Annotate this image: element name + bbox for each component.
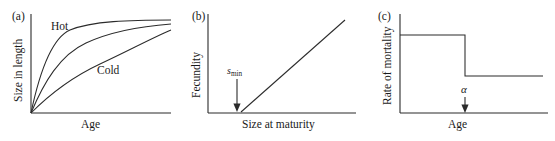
three-panel-life-history-figure: (a) Size in length Age Hot Cold (b) Fecu…	[0, 0, 555, 141]
panel-b-x-axis-label: Size at maturity	[242, 119, 315, 131]
panel-b-label: (b)	[192, 11, 205, 23]
panel-c-mortality-plot: (c) Rate of mortality Age α	[370, 0, 555, 141]
panel-c-alpha-marker-label: α	[461, 84, 467, 95]
panel-a-x-axis-label: Age	[81, 119, 100, 131]
panel-a-y-axis-label: Size in length	[13, 39, 25, 102]
panel-b-y-axis-label: Fecundity	[191, 52, 203, 98]
panel-b-fecundity-plot: (b) Fecundity Size at maturity smin	[185, 0, 370, 141]
panel-a-cold-curve-label: Cold	[97, 65, 119, 77]
panel-c-mortality-step-curve	[400, 35, 543, 76]
panel-c-alpha-arrow-head	[461, 105, 468, 114]
panel-b-smin-subscript: min	[231, 70, 242, 78]
panel-c-y-axis-label: Rate of mortality	[382, 26, 394, 105]
panel-a-label: (a)	[12, 11, 25, 23]
panel-c-x-axis-label: Age	[448, 119, 467, 131]
panel-a-growth-curves: (a) Size in length Age Hot Cold	[0, 0, 185, 141]
panel-b-smin-arrow-head	[233, 104, 240, 113]
panel-b-smin-marker-label: smin	[227, 66, 242, 76]
panel-c-label: (c)	[378, 11, 391, 23]
panel-a-hot-curve-label: Hot	[51, 21, 68, 33]
panel-b-fecundity-line	[241, 20, 345, 112]
